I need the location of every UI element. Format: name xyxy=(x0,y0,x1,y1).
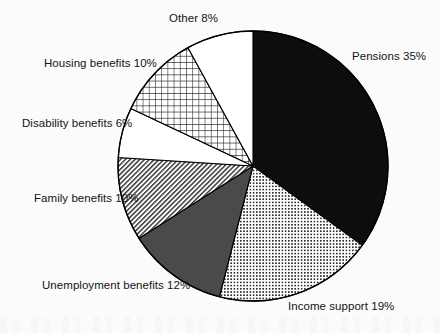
slice-label-income-support: Income support 19% xyxy=(288,300,394,313)
slice-label-family-benefits: Family benefits 10% xyxy=(34,192,139,205)
pie-chart: Pensions 35% Income support 19% Unemploy… xyxy=(0,0,440,333)
pie-slice-group xyxy=(118,31,388,301)
slice-label-unemployment-benefits: Unemployment benefits 12% xyxy=(42,279,190,292)
slice-label-housing-benefits: Housing benefits 10% xyxy=(44,57,157,70)
slice-label-disability-benefits: Disability benefits 6% xyxy=(22,117,132,130)
slice-label-pensions: Pensions 35% xyxy=(352,50,426,63)
slice-label-other: Other 8% xyxy=(169,12,218,25)
